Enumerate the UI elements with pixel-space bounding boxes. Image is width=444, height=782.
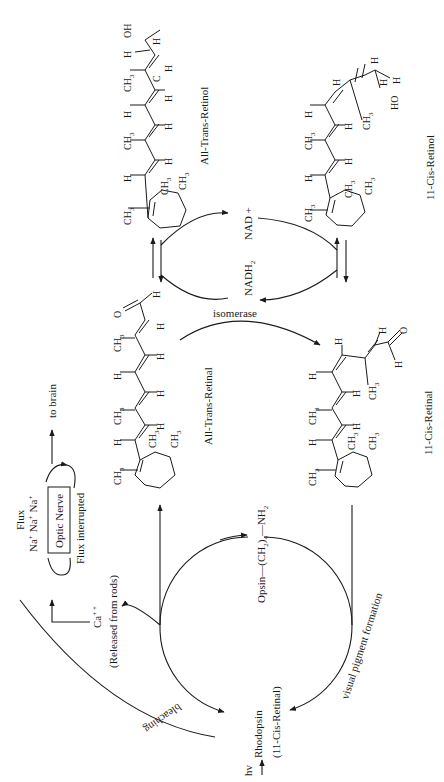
svg-text:H: H [163, 65, 174, 72]
svg-text:OH: OH [122, 24, 133, 38]
svg-text:CH3: CH3 [122, 74, 136, 92]
svg-text:C: C [151, 75, 162, 82]
svg-text:H: H [378, 79, 389, 86]
label-isomerase: isomerase [213, 307, 257, 319]
svg-text:H: H [343, 123, 354, 130]
cis-retinal-atoms: CH3 H CH3 H H H H CH3 CH3 CH3 H O H [307, 327, 409, 486]
all-trans-retinal-structure [120, 293, 175, 488]
label-nadh2: NADH2 [242, 260, 257, 296]
svg-text:H: H [122, 51, 133, 58]
label-rhodopsin-sub: (11-Cis-Retinal) [270, 686, 283, 758]
label-flux-interrupted: Flux interrupted [74, 492, 86, 564]
svg-text:CH3: CH3 [112, 334, 126, 352]
svg-text:CH3: CH3 [363, 177, 377, 195]
svg-text:CH3: CH3 [307, 468, 321, 486]
svg-text:H: H [155, 423, 166, 430]
svg-text:HO: HO [389, 96, 400, 110]
label-na-ions: Na+Na+Na+ [27, 496, 39, 552]
svg-text:H: H [307, 373, 318, 380]
svg-text:CH3: CH3 [346, 432, 360, 450]
label-ca-released: (Released from rods) [107, 575, 120, 668]
svg-text:H: H [333, 338, 344, 345]
svg-text:CH3: CH3 [159, 177, 173, 195]
svg-text:CH3: CH3 [303, 132, 317, 150]
svg-text:H: H [163, 95, 174, 102]
svg-text:O: O [112, 311, 123, 318]
svg-text:CH3: CH3 [367, 382, 381, 400]
label-visual-pigment-formation: visual pigment formation [338, 591, 384, 701]
svg-text:CH3: CH3 [307, 407, 321, 425]
svg-text:CH3: CH3 [122, 132, 136, 150]
svg-text:H: H [377, 327, 388, 334]
svg-text:H: H [163, 123, 174, 130]
svg-text:H: H [163, 158, 174, 165]
label-rhodopsin: Rhodopsin [252, 710, 264, 758]
svg-text:CH3: CH3 [361, 112, 375, 130]
svg-text:CH3: CH3 [112, 467, 126, 485]
label-to-brain: to brain [46, 384, 58, 418]
label-cis-retinol: 11-Cis-Retinol [424, 135, 436, 200]
svg-text:H: H [122, 175, 133, 182]
svg-text:H: H [331, 79, 342, 86]
svg-text:H: H [391, 77, 402, 84]
svg-text:H: H [155, 323, 166, 330]
svg-text:H: H [303, 175, 314, 182]
svg-text:CH3: CH3 [112, 407, 126, 425]
svg-text:CH3: CH3 [177, 172, 191, 190]
svg-text:H: H [112, 439, 123, 446]
svg-text:H: H [351, 390, 362, 397]
svg-text:H: H [112, 373, 123, 380]
svg-text:H: H [393, 361, 404, 368]
isomerase-arrow [180, 321, 320, 345]
svg-text:CH3: CH3 [147, 430, 161, 448]
label-bleaching: bleaching [141, 701, 183, 736]
svg-text:O: O [398, 327, 409, 334]
svg-text:CH3: CH3 [343, 180, 357, 198]
svg-text:H: H [351, 423, 362, 430]
label-optic-nerve: Optic Nerve [53, 494, 65, 548]
svg-text:H: H [307, 439, 318, 446]
svg-text:H: H [122, 111, 133, 118]
label-flux: Flux [14, 509, 26, 530]
svg-text:CH3: CH3 [169, 430, 183, 448]
label-cis-retinal: 11-Cis-Retinal [422, 391, 434, 455]
all-trans-retinol-structure [128, 30, 186, 228]
svg-text:H: H [343, 158, 354, 165]
label-ca: Ca+ + [91, 606, 103, 628]
svg-text:H: H [155, 353, 166, 360]
svg-text:H: H [151, 38, 162, 45]
cis-retinol-structure [310, 64, 390, 226]
label-nad-plus: NAD + [242, 207, 254, 240]
svg-text:H: H [303, 111, 314, 118]
cis-retinol-atoms: CH3 H CH3 H H H H CH3 CH3 CH3 H H H HO [303, 57, 402, 222]
svg-text:CH3: CH3 [122, 207, 136, 225]
svg-text:H: H [369, 57, 380, 64]
svg-text:H: H [151, 291, 162, 298]
svg-text:CH3: CH3 [367, 432, 381, 450]
label-opsin: Opsin—(CH2)4—NH2 [255, 505, 270, 603]
label-all-trans-retinol: All-Trans-Retinol [198, 87, 210, 165]
label-hv: hv [242, 765, 254, 777]
svg-text:CH3: CH3 [303, 204, 317, 222]
label-all-trans-retinal: All-Trans-Retinal [202, 367, 214, 445]
visual-cycle-diagram: CH3 H CH3 H CH3 H OH H H H C H H CH3 CH3… [0, 0, 444, 782]
cis-retinal-structure [316, 330, 402, 487]
svg-text:H: H [155, 390, 166, 397]
